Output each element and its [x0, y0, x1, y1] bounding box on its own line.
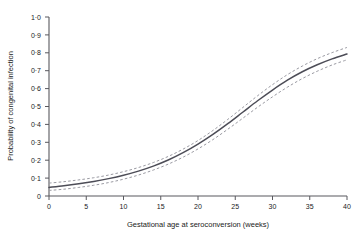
y-tick-label: 0·3 — [31, 139, 41, 146]
fitted-probability-curve — [49, 54, 347, 187]
y-tick-label: 0·1 — [31, 175, 41, 182]
ci-lower-curve — [49, 60, 347, 191]
congenital-infection-probability-chart: 00·10·20·30·40·50·60·70·80·91·0 05101520… — [0, 0, 360, 233]
figure-container: 00·10·20·30·40·50·60·70·80·91·0 05101520… — [0, 0, 360, 233]
y-tick-label: 0 — [37, 193, 41, 200]
x-tick-label: 10 — [120, 203, 128, 210]
y-axis-tick-labels: 00·10·20·30·40·50·60·70·80·91·0 — [31, 14, 41, 200]
x-tick-label: 25 — [231, 203, 239, 210]
ci-upper-curve — [49, 47, 347, 183]
x-tick-label: 15 — [157, 203, 165, 210]
y-tick-label: 0·6 — [31, 85, 41, 92]
x-tick-label: 5 — [84, 203, 88, 210]
x-tick-label: 0 — [47, 203, 51, 210]
y-tick-label: 0·4 — [31, 121, 41, 128]
x-tick-label: 40 — [343, 203, 351, 210]
y-tick-label: 0·2 — [31, 157, 41, 164]
y-axis-title: Probability of congenital infection — [6, 51, 15, 161]
x-tick-label: 35 — [306, 203, 314, 210]
x-axis-tick-labels: 0510152025303540 — [47, 203, 351, 210]
y-axis-tick-marks — [45, 17, 49, 196]
y-tick-label: 0·5 — [31, 103, 41, 110]
y-tick-label: 0·9 — [31, 32, 41, 39]
x-axis-title: Gestational age at seroconversion (weeks… — [127, 220, 270, 229]
x-axis-tick-marks — [49, 196, 347, 200]
y-tick-label: 0·7 — [31, 67, 41, 74]
x-tick-label: 20 — [194, 203, 202, 210]
x-tick-label: 30 — [269, 203, 277, 210]
y-tick-label: 1·0 — [31, 14, 41, 21]
y-tick-label: 0·8 — [31, 49, 41, 56]
